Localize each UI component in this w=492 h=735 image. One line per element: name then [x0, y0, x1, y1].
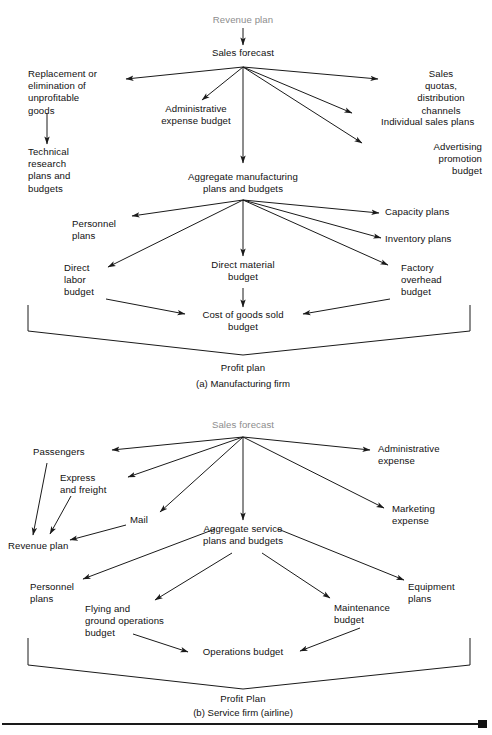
node-b-operations-budget: Operations budget [203, 646, 284, 658]
node-b-administrative-expense: Administrative expense [378, 443, 440, 467]
footer-divider [2, 723, 480, 725]
node-b-aggregate-service-plans: Aggregate service plans and budgets [203, 523, 283, 547]
node-b-express-and-freight: Express and freight [60, 472, 106, 496]
node-a-direct-labor-budget: Direct labor budget [64, 262, 94, 299]
node-a-personnel-plans: Personnel plans [72, 218, 116, 242]
node-a-replacement-elimination: Replacement or elimination of unprofitab… [28, 68, 97, 117]
node-a-inventory-plans: Inventory plans [385, 233, 452, 245]
node-b-maintenance-budget: Maintenance budget [334, 602, 390, 626]
node-b-profit-plan: Profit Plan [220, 693, 265, 705]
node-b-sales-forecast: Sales forecast [212, 419, 274, 431]
node-a-advertising-promotion-budget: Advertising promotion budget [433, 141, 482, 178]
node-a-individual-sales-plans: Individual sales plans [381, 116, 474, 128]
node-a-capacity-plans: Capacity plans [385, 206, 449, 218]
node-a-direct-material-budget: Direct material budget [211, 259, 274, 283]
node-b-mail: Mail [130, 514, 148, 526]
caption-panel-a: (a) Manufacturing firm [196, 378, 290, 390]
footer-end-marker [478, 720, 487, 728]
node-b-marketing-expense: Marketing expense [392, 503, 435, 527]
figure-root: Revenue plan Sales forecast Replacement … [0, 0, 492, 735]
node-a-factory-overhead-budget: Factory overhead budget [401, 262, 442, 299]
node-b-passengers: Passengers [33, 446, 85, 458]
node-a-administrative-expense-budget: Administrative expense budget [161, 103, 231, 127]
node-a-sales-quotas: Sales quotas, distribution channels [416, 68, 467, 117]
node-a-aggregate-manufacturing: Aggregate manufacturing plans and budget… [188, 171, 298, 195]
node-b-revenue-plan: Revenue plan [8, 540, 68, 552]
node-a-sales-forecast: Sales forecast [212, 47, 274, 59]
node-a-technical-research: Technical research plans and budgets [28, 146, 70, 195]
node-a-cost-of-goods-sold-budget: Cost of goods sold budget [202, 309, 283, 333]
node-b-equipment-plans: Equipment plans [408, 581, 455, 605]
node-b-personnel-plans: Personnel plans [30, 581, 74, 605]
node-b-flying-ground-operations-budget: Flying and ground operations budget [85, 603, 164, 640]
node-a-profit-plan: Profit plan [221, 362, 265, 374]
caption-panel-b: (b) Service firm (airline) [193, 707, 293, 719]
node-a-revenue-plan: Revenue plan [213, 14, 273, 26]
